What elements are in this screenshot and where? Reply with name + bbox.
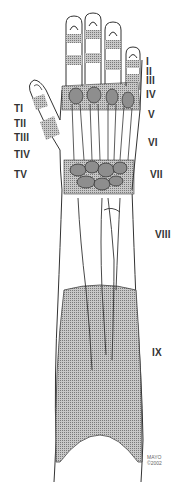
- zone-label-v: V: [148, 110, 155, 120]
- finger-middle: [85, 13, 101, 84]
- finger-index: [66, 16, 82, 86]
- finger-ring: [105, 22, 121, 84]
- thumb-zone-label-tiv: TIV: [14, 150, 30, 160]
- thumb-zone-label-tv: TV: [14, 170, 27, 180]
- copyright-credit: MAYO ©2002: [147, 454, 162, 466]
- thumb-zones: [32, 85, 60, 140]
- thumb-zone-label-ti: TI: [14, 104, 23, 114]
- zone-label-iii: III: [146, 76, 155, 86]
- thumb-zone-label-tiii: TIII: [14, 133, 29, 143]
- zone-label-vii: VII: [150, 170, 163, 180]
- metacarpals: [72, 104, 132, 160]
- hand-forearm-illustration: [0, 0, 180, 482]
- zone-label-iv: IV: [146, 90, 156, 100]
- zone-label-ix: IX: [152, 348, 162, 358]
- zone-label-vi: VI: [148, 138, 158, 148]
- zone-ix-shading: [56, 285, 142, 462]
- thumb-zone-label-tii: TII: [14, 119, 26, 129]
- zone-label-viii: VIII: [155, 230, 171, 240]
- credit-line-2: ©2002: [147, 460, 162, 466]
